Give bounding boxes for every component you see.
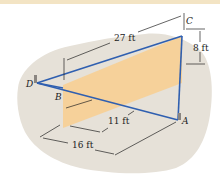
anchor-A (178, 113, 181, 120)
dimension-8ft: 8 ft (193, 44, 209, 53)
dimension-27ft: 27 ft (114, 34, 135, 43)
point-C-label: C (186, 17, 193, 26)
point-B-label: B (55, 93, 62, 102)
diagram-canvas: C D B A 27 ft 8 ft 11 ft 16 ft (0, 0, 220, 177)
anchor-D (34, 75, 37, 83)
dimension-16ft: 16 ft (72, 141, 93, 150)
dimension-11ft: 11 ft (108, 117, 129, 126)
point-D-label: D (26, 80, 33, 89)
point-A-label: A (182, 117, 189, 126)
